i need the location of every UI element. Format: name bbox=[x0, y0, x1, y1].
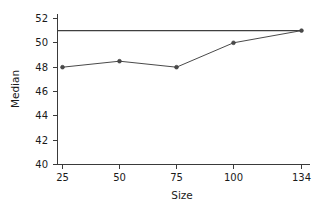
y-axis-tick-labels: 40 42 44 46 48 50 52 bbox=[35, 13, 48, 170]
y-tick-label: 42 bbox=[35, 135, 48, 146]
y-tick-label: 52 bbox=[35, 13, 48, 24]
y-tick-label: 48 bbox=[35, 62, 48, 73]
y-axis-title: Median bbox=[9, 70, 21, 108]
x-tick-label: 50 bbox=[113, 172, 126, 183]
y-tick-label: 50 bbox=[35, 37, 48, 48]
x-axis-tick-labels: 25 50 75 100 134 bbox=[56, 172, 311, 183]
x-axis-ticks bbox=[63, 165, 302, 170]
x-tick-label: 25 bbox=[56, 172, 69, 183]
y-tick-label: 46 bbox=[35, 86, 48, 97]
line-chart: 40 42 44 46 48 50 52 25 50 75 100 134 bbox=[0, 0, 323, 214]
data-point-marker bbox=[175, 65, 179, 69]
y-tick-label: 40 bbox=[35, 159, 48, 170]
data-point-marker bbox=[61, 65, 65, 69]
data-point-marker bbox=[232, 41, 236, 45]
chart-container: 40 42 44 46 48 50 52 25 50 75 100 134 bbox=[0, 0, 323, 214]
x-tick-label: 100 bbox=[224, 172, 243, 183]
plot-area bbox=[57, 14, 299, 164]
x-tick-label: 75 bbox=[170, 172, 183, 183]
y-tick-label: 44 bbox=[35, 110, 48, 121]
data-point-marker bbox=[118, 59, 122, 63]
data-point-marker bbox=[300, 29, 304, 33]
x-axis-title: Size bbox=[171, 189, 193, 201]
x-tick-label: 134 bbox=[292, 172, 311, 183]
y-axis-ticks bbox=[53, 19, 57, 165]
